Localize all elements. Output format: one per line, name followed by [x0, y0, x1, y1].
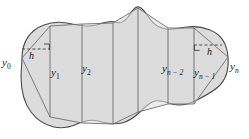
- ordinate-label-yn: yn: [230, 61, 239, 72]
- numerical-integration-figure: y0 y1 y2 yn − 2 yn − 1 yn h h: [0, 0, 249, 139]
- ordinate-label-y1: y1: [51, 67, 60, 78]
- ordinate-label-y0: y0: [2, 57, 11, 68]
- ordinate-label-yn-1: yn − 1: [194, 67, 215, 78]
- ordinate-sub-y1: 1: [56, 72, 60, 81]
- ordinate-label-y2: y2: [82, 63, 91, 74]
- width-label-h-left: h: [29, 51, 34, 61]
- width-label-h-right: h: [207, 47, 212, 57]
- ordinate-sub-yn: n: [235, 66, 239, 75]
- ordinate-sub-yn-1: n − 1: [199, 72, 215, 81]
- ordinate-sub-y0: 0: [7, 62, 11, 71]
- ordinate-label-yn-2: yn − 2: [162, 63, 183, 74]
- ordinate-sub-yn-2: n − 2: [167, 68, 183, 77]
- ordinate-sub-y2: 2: [87, 68, 91, 77]
